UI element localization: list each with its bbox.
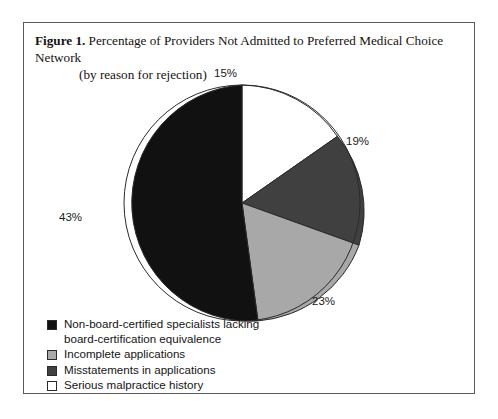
pie-slice-non-board-certified-specialists <box>132 85 258 321</box>
legend-label-incomplete-applications: Incomplete applications <box>64 347 185 362</box>
legend-label-misstatements: Misstatements in applications <box>64 363 215 378</box>
pie-value-label-43: 43% <box>59 211 82 223</box>
chart-legend: Non-board-certified specialists lacking … <box>47 317 377 394</box>
legend-label-line-2: board-certification equivalence <box>64 332 259 347</box>
legend-swatch-icon-misstatements <box>47 366 57 376</box>
legend-label-non-board-certified: Non-board-certified specialists lacking … <box>64 317 259 346</box>
pie-value-label-23: 23% <box>312 295 335 307</box>
figure-frame: Figure 1. Percentage of Providers Not Ad… <box>23 22 475 394</box>
legend-item-misstatements: Misstatements in applications <box>47 363 377 378</box>
legend-swatch-icon-serious-malpractice <box>47 381 57 391</box>
legend-label-serious-malpractice: Serious malpractice history <box>64 378 203 393</box>
pie-value-label-15: 15% <box>214 67 237 79</box>
legend-swatch-icon-non-board-certified <box>47 320 57 330</box>
legend-item-incomplete-applications: Incomplete applications <box>47 347 377 362</box>
pie-chart-svg <box>118 79 366 327</box>
legend-item-non-board-certified: Non-board-certified specialists lacking … <box>47 317 377 346</box>
legend-label-line-1: Non-board-certified specialists lacking <box>64 317 259 332</box>
legend-item-serious-malpractice: Serious malpractice history <box>47 378 377 393</box>
pie-value-label-19: 19% <box>346 135 369 147</box>
legend-swatch-icon-incomplete-applications <box>47 350 57 360</box>
